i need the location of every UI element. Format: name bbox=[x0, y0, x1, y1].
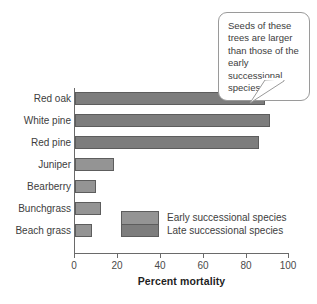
category-label: Beach grass bbox=[3, 220, 71, 242]
legend-swatch-late bbox=[122, 224, 158, 237]
annotation-callout-text: Seeds of these trees are larger than tho… bbox=[228, 20, 302, 94]
bar-bunchgrass bbox=[75, 202, 101, 215]
category-label: Bearberry bbox=[3, 176, 71, 198]
bar-juniper bbox=[75, 158, 114, 171]
bar-beach-grass bbox=[75, 224, 92, 237]
y-axis-label-beach-grass: Beach grass bbox=[0, 220, 71, 242]
x-tick-label-100: 100 bbox=[273, 260, 303, 271]
y-axis-label-red-pine: Red pine bbox=[0, 132, 71, 154]
legend-label-early: Early successional species bbox=[167, 211, 287, 224]
category-label: White pine bbox=[3, 110, 71, 132]
x-axis-title: Percent mortality bbox=[74, 275, 289, 287]
x-tick-label-40: 40 bbox=[145, 260, 175, 271]
x-tick-100 bbox=[288, 253, 289, 258]
legend-swatch-early bbox=[122, 212, 158, 224]
x-tick-label-20: 20 bbox=[102, 260, 132, 271]
chart-legend: Early successional species Late successi… bbox=[121, 211, 287, 237]
x-tick-40 bbox=[160, 253, 161, 258]
bar-white-pine bbox=[75, 114, 270, 127]
category-label: Red pine bbox=[3, 132, 71, 154]
bar-bearberry bbox=[75, 180, 96, 193]
x-axis-line bbox=[74, 253, 289, 254]
x-tick-20 bbox=[117, 253, 118, 258]
legend-swatch bbox=[121, 211, 159, 237]
y-axis-label-bunchgrass: Bunchgrass bbox=[0, 198, 71, 220]
bar-red-pine bbox=[75, 136, 259, 149]
legend-label-late: Late successional species bbox=[167, 224, 287, 237]
x-tick-80 bbox=[246, 253, 247, 258]
x-tick-label-60: 60 bbox=[188, 260, 218, 271]
y-axis-label-juniper: Juniper bbox=[0, 154, 71, 176]
category-label: Red oak bbox=[3, 88, 71, 110]
bar-chart-figure: Red oak White pine Red pine Juniper Bear… bbox=[0, 0, 317, 304]
x-tick-label-0: 0 bbox=[59, 260, 89, 271]
annotation-callout: Seeds of these trees are larger than tho… bbox=[218, 12, 310, 101]
x-tick-60 bbox=[203, 253, 204, 258]
x-tick-0 bbox=[74, 253, 75, 258]
category-label: Bunchgrass bbox=[3, 198, 71, 220]
y-axis-label-white-pine: White pine bbox=[0, 110, 71, 132]
category-label: Juniper bbox=[3, 154, 71, 176]
y-axis-label-red-oak: Red oak bbox=[0, 88, 71, 110]
y-axis-label-bearberry: Bearberry bbox=[0, 176, 71, 198]
x-tick-label-80: 80 bbox=[231, 260, 261, 271]
